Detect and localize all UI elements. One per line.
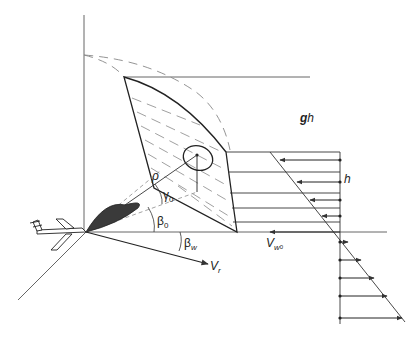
h-label: h xyxy=(344,173,351,185)
v-symbol: V xyxy=(266,236,274,250)
h-symbol: h xyxy=(307,111,314,125)
antenna-beam-lobe xyxy=(86,203,139,232)
depth-axis xyxy=(18,232,86,300)
gamma0-label: γ0 xyxy=(163,189,173,201)
zero-subsubscript: 0 xyxy=(280,244,283,250)
vr-label: Vr xyxy=(210,260,221,272)
wind-shear-geometry-diagram xyxy=(0,0,419,341)
betaw-label: βw xyxy=(184,237,197,249)
w-subscript: w xyxy=(274,243,280,252)
beta-subscript: 0 xyxy=(164,221,168,230)
r-subscript: r xyxy=(218,266,221,275)
wind-profile xyxy=(226,152,405,324)
hatched-surface-patch xyxy=(124,77,237,232)
v-symbol: V xyxy=(210,259,218,273)
beta0-label: β0 xyxy=(157,215,168,227)
betaw-arc xyxy=(179,232,181,251)
rho-label: ρ xyxy=(152,170,159,182)
vw0-label: Vw0 xyxy=(266,237,283,249)
aircraft-icon xyxy=(30,219,86,250)
beta-symbol: β xyxy=(157,214,164,228)
beta-w-symbol: β xyxy=(184,236,191,250)
gh-label: gh xyxy=(300,112,314,124)
beta-w-subscript: w xyxy=(191,243,197,252)
beta0-arc xyxy=(148,207,154,232)
gamma-subscript: 0 xyxy=(169,195,173,204)
